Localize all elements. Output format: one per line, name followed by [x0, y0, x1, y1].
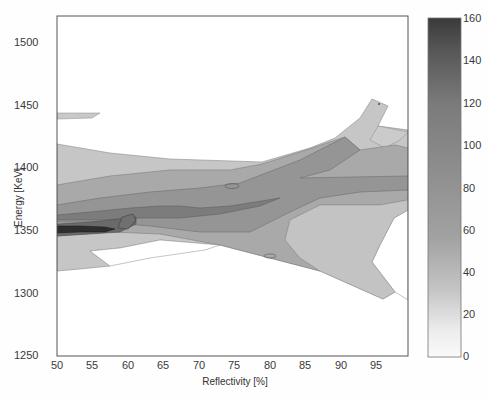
x-tick-65: 65 — [157, 359, 169, 371]
cbar-tick-80: 80 — [463, 182, 475, 194]
x-axis-label: Reflectivity [%] — [180, 376, 290, 387]
x-tick-90: 90 — [335, 359, 347, 371]
x-tick-75: 75 — [228, 359, 240, 371]
x-tick-95: 95 — [370, 359, 382, 371]
x-tick-80: 80 — [264, 359, 276, 371]
colorbar — [428, 18, 461, 357]
y-tick-1450: 1450 — [14, 99, 38, 111]
cbar-tick-0: 0 — [463, 350, 469, 362]
x-tick-60: 60 — [122, 359, 134, 371]
y-tick-1500: 1500 — [14, 36, 38, 48]
cbar-tick-120: 120 — [463, 97, 481, 109]
cbar-tick-20: 20 — [463, 308, 475, 320]
x-tick-55: 55 — [86, 359, 98, 371]
x-tick-85: 85 — [299, 359, 311, 371]
chart-canvas — [0, 0, 488, 398]
cbar-tick-160: 160 — [463, 12, 481, 24]
y-tick-1250: 1250 — [14, 349, 38, 361]
cbar-tick-60: 60 — [463, 224, 475, 236]
cbar-tick-140: 140 — [463, 54, 481, 66]
y-axis-label: Energy [KeV] — [13, 158, 24, 238]
x-tick-50: 50 — [51, 359, 63, 371]
x-tick-70: 70 — [193, 359, 205, 371]
y-tick-1300: 1300 — [14, 287, 38, 299]
cbar-tick-100: 100 — [463, 139, 481, 151]
cbar-tick-40: 40 — [463, 266, 475, 278]
